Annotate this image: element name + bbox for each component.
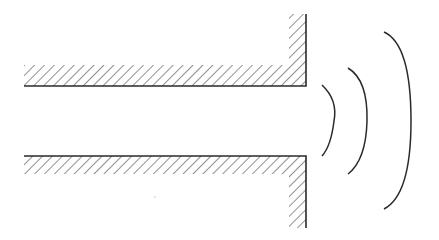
tube-sound-radiation-diagram: [0, 0, 439, 240]
sound-wavefronts: [322, 32, 411, 209]
wavefront-arc-2: [348, 68, 367, 174]
wavefront-arc-3: [384, 32, 411, 209]
upper-wall-hatching: [24, 14, 306, 86]
upper-tube-wall: [24, 14, 306, 86]
lower-wall-hatching: [24, 156, 306, 228]
lower-tube-wall: [24, 156, 306, 228]
wavefront-arc-1: [322, 85, 335, 156]
scan-speck: [154, 196, 156, 198]
